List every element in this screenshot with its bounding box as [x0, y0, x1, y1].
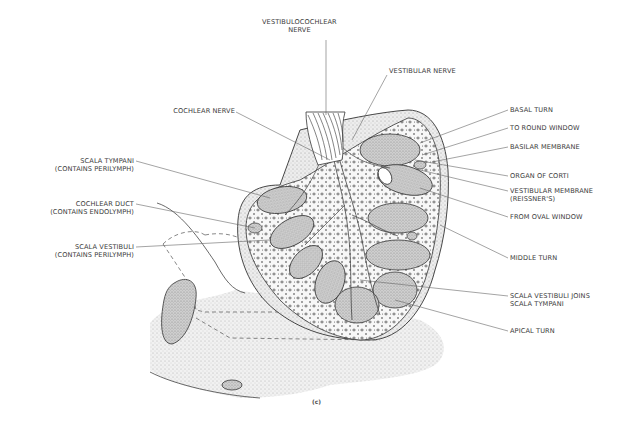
label-scala-vestibuli-joins: SCALA VESTIBULI JOINS SCALA TYMPANI [510, 292, 590, 308]
label-basal-turn: BASAL TURN [510, 106, 553, 114]
label-vestibulocochlear-nerve: VESTIBULOCOCHLEAR NERVE [262, 18, 337, 34]
label-vestibular-membrane: VESTIBULAR MEMBRANE (REISSNER'S) [510, 187, 593, 203]
label-vestibular-nerve: VESTIBULAR NERVE [389, 67, 456, 75]
label-cochlear-duct: COCHLEAR DUCT (CONTAINS ENDOLYMPH) [50, 200, 134, 216]
figure-caption: (c) [312, 398, 321, 405]
label-scala-vestibuli: SCALA VESTIBULI (CONTAINS PERILYMPH) [55, 243, 134, 259]
label-apical-turn: APICAL TURN [510, 327, 555, 335]
label-cochlear-nerve: COCHLEAR NERVE [173, 107, 235, 115]
label-organ-of-corti: ORGAN OF CORTI [510, 172, 569, 180]
label-middle-turn: MIDDLE TURN [510, 254, 557, 262]
label-scala-tympani: SCALA TYMPANI (CONTAINS PERILYMPH) [55, 157, 134, 173]
label-to-round-window: TO ROUND WINDOW [510, 124, 580, 132]
label-from-oval-window: FROM OVAL WINDOW [510, 213, 583, 221]
label-basilar-membrane: BASILAR MEMBRANE [510, 143, 580, 151]
